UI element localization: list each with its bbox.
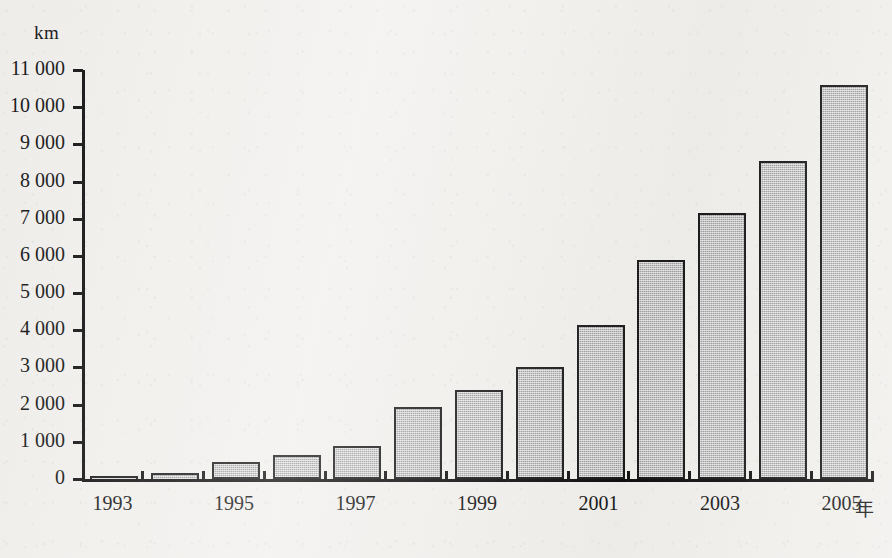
y-axis-tick: 1 000 bbox=[73, 441, 83, 444]
x-axis-tick bbox=[506, 471, 509, 482]
y-axis-tick-label: 8 000 bbox=[0, 169, 65, 191]
y-axis-tick-label: 0 bbox=[0, 466, 65, 488]
bar-chart-figure: km 11 00010 0009 0008 0007 0006 0005 000… bbox=[0, 0, 892, 558]
y-axis-tick-label: 1 000 bbox=[0, 429, 65, 451]
x-axis-unit-label: 年 bbox=[855, 494, 874, 521]
x-axis-tick bbox=[263, 471, 266, 482]
x-axis-tick bbox=[871, 471, 874, 482]
bar-1998 bbox=[394, 407, 442, 479]
bar-2005 bbox=[820, 85, 868, 479]
x-axis-tick-label-2003: 2003 bbox=[700, 492, 740, 515]
x-axis-tick bbox=[688, 471, 691, 482]
y-axis-tick: 9 000 bbox=[73, 143, 83, 146]
y-axis-tick-label: 3 000 bbox=[0, 354, 65, 376]
x-axis-tick bbox=[810, 471, 813, 482]
y-axis-tick-label: 6 000 bbox=[0, 243, 65, 265]
x-axis-tick bbox=[202, 471, 205, 482]
bar-2001 bbox=[577, 325, 625, 479]
bar-2004 bbox=[759, 161, 807, 479]
y-axis-unit-label: km bbox=[34, 22, 59, 44]
x-axis-tick bbox=[445, 471, 448, 482]
y-axis-tick: 6 000 bbox=[73, 255, 83, 258]
y-axis-tick: 3 000 bbox=[73, 366, 83, 369]
bar-1996 bbox=[273, 455, 321, 479]
bar-1993 bbox=[90, 476, 138, 479]
y-axis-tick-label: 7 000 bbox=[0, 206, 65, 228]
y-axis-tick: 10 000 bbox=[73, 106, 83, 109]
x-axis-tick bbox=[141, 471, 144, 482]
y-axis-tick: 2 000 bbox=[73, 404, 83, 407]
x-axis-tick-label-2001: 2001 bbox=[579, 492, 619, 515]
y-axis-tick: 7 000 bbox=[73, 218, 83, 221]
x-axis-line bbox=[82, 479, 872, 482]
plot-area: 11 00010 0009 0008 0007 0006 0005 0004 0… bbox=[82, 70, 872, 482]
x-axis-tick-label-1993: 1993 bbox=[92, 492, 132, 515]
y-axis-tick-label: 11 000 bbox=[0, 57, 65, 79]
x-axis-tick bbox=[324, 471, 327, 482]
y-axis-tick-label: 2 000 bbox=[0, 392, 65, 414]
y-axis-tick-label: 9 000 bbox=[0, 131, 65, 153]
y-axis-tick: 11 000 bbox=[73, 69, 83, 72]
bar-2002 bbox=[637, 260, 685, 479]
x-axis-tick bbox=[567, 471, 570, 482]
x-axis-tick-label-1997: 1997 bbox=[335, 492, 375, 515]
y-axis-tick-label: 10 000 bbox=[0, 94, 65, 116]
y-axis-tick: 4 000 bbox=[73, 329, 83, 332]
x-axis-tick bbox=[749, 471, 752, 482]
bar-1994 bbox=[151, 473, 199, 479]
y-axis-tick-label: 4 000 bbox=[0, 317, 65, 339]
x-axis-tick-label-1999: 1999 bbox=[457, 492, 497, 515]
x-axis-tick bbox=[627, 471, 630, 482]
y-axis-tick: 0 bbox=[73, 478, 83, 481]
bar-1999 bbox=[455, 390, 503, 479]
y-axis-tick: 5 000 bbox=[73, 292, 83, 295]
bar-1997 bbox=[333, 446, 381, 479]
x-axis-tick-label-1995: 1995 bbox=[214, 492, 254, 515]
bar-2003 bbox=[698, 213, 746, 479]
bar-1995 bbox=[212, 462, 260, 479]
y-axis-line bbox=[82, 70, 85, 482]
bar-2000 bbox=[516, 367, 564, 479]
y-axis-tick-label: 5 000 bbox=[0, 280, 65, 302]
y-axis-tick: 8 000 bbox=[73, 181, 83, 184]
x-axis-tick bbox=[384, 471, 387, 482]
